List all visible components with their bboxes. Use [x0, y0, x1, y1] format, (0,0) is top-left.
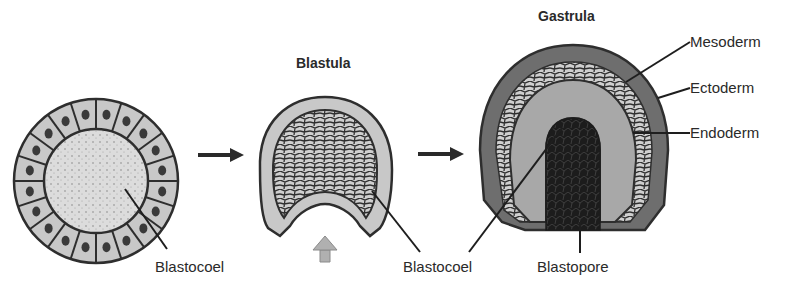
title-gastrula: Gastrula: [538, 8, 595, 24]
arrow-right-icon: [418, 147, 464, 161]
title-blastula: Blastula: [296, 55, 350, 71]
label-endoderm: Endoderm: [690, 124, 759, 141]
label-blastocoel-sphere: Blastocoel: [155, 258, 224, 275]
diagram-canvas: [0, 0, 786, 289]
blastula-embryo: [260, 97, 392, 262]
sphere-embryo: [14, 99, 178, 263]
label-ectoderm: Ectoderm: [690, 79, 754, 96]
label-blastocoel-blastula: Blastocoel: [403, 258, 472, 275]
label-mesoderm: Mesoderm: [690, 33, 761, 50]
label-blastopore: Blastopore: [537, 258, 609, 275]
invagination-arrow-icon: [313, 236, 337, 262]
embryo-development-diagram: Blastula Gastrula Blastocoel Blastocoel …: [0, 0, 786, 289]
arrow-right-icon: [198, 148, 244, 162]
